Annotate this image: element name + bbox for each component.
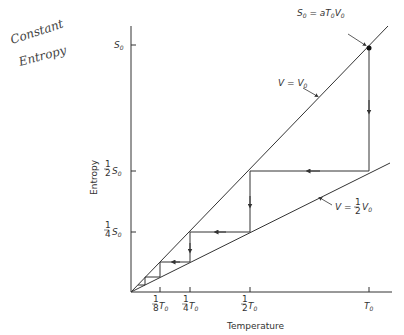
annotation-line2: Entropy (16, 43, 68, 69)
label-v0: V = V0 (278, 78, 317, 96)
svg-text:T0: T0 (248, 301, 258, 312)
annotation-line1: Constant (9, 17, 66, 47)
svg-text:S0: S0 (112, 166, 122, 177)
entropy-temperature-diagram: Constant Entropy S0 1 2 S0 1 4 S0 (0, 0, 404, 335)
ytick-half-S0: 1 2 S0 (104, 159, 122, 178)
handwritten-annotation: Constant Entropy (9, 17, 68, 70)
ytick-S0: S0 (114, 40, 124, 51)
svg-text:S0: S0 (112, 227, 122, 238)
ytick-quarter-S0: 1 4 S0 (104, 220, 122, 239)
svg-text:2: 2 (242, 303, 248, 313)
xtick-T0: T0 (364, 301, 374, 312)
svg-text:2: 2 (105, 168, 111, 178)
xtick-half-T0: 1 2 T0 (241, 294, 258, 313)
svg-text:T0: T0 (159, 301, 169, 312)
line-v-equals-half-v0 (131, 163, 390, 292)
y-tick-labels: S0 1 2 S0 1 4 S0 (104, 40, 124, 239)
x-tick-labels: 1 8 T0 1 4 T0 1 2 T0 T0 (152, 294, 374, 313)
xtick-quarter-T0: 1 4 T0 (182, 294, 199, 313)
svg-text:V =: V = (335, 202, 352, 212)
xtick-eighth-T0: 1 8 T0 (152, 294, 169, 313)
label-vhalf: V = 1 2 V0 (320, 197, 372, 216)
y-axis-title: Entropy (89, 159, 99, 195)
svg-text:T0: T0 (189, 301, 199, 312)
svg-text:S0 = aT0V0: S0 = aT0V0 (297, 8, 345, 19)
label-point: S0 = aT0V0 (297, 8, 365, 45)
line-v-equals-v0 (131, 26, 388, 292)
point-S0 (367, 46, 372, 51)
x-axis-title: Temperature (226, 321, 284, 331)
svg-text:4: 4 (105, 229, 111, 239)
svg-text:V0: V0 (362, 202, 372, 213)
svg-text:2: 2 (355, 206, 361, 216)
svg-text:V = V0: V = V0 (278, 78, 308, 89)
